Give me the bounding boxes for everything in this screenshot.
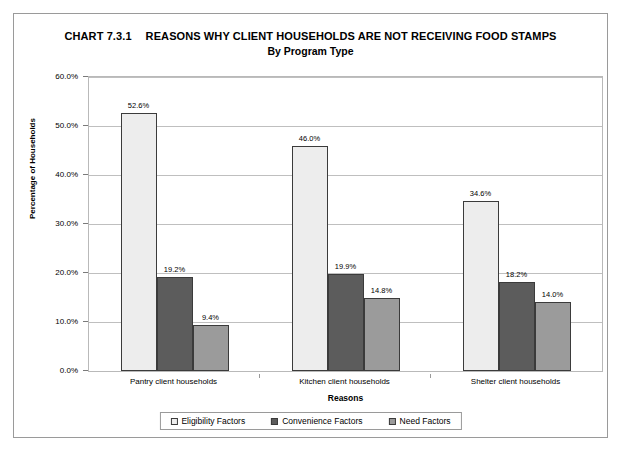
bar[interactable]: 18.2% <box>499 282 535 371</box>
legend-label: Convenience Factors <box>282 416 362 426</box>
bar[interactable]: 52.6% <box>121 113 157 371</box>
bar-group: 46.0%19.9%14.8% <box>260 77 431 371</box>
legend-label: Need Factors <box>400 416 451 426</box>
bar-value-label: 19.2% <box>164 265 185 274</box>
x-category-label: Kitchen client households <box>299 377 390 386</box>
y-tick-label: 60.0% <box>55 72 78 81</box>
bar[interactable]: 9.4% <box>193 325 229 371</box>
bar-value-label: 9.4% <box>202 313 219 322</box>
bar-value-label: 14.0% <box>542 290 563 299</box>
legend-swatch-icon <box>271 418 278 425</box>
bar-value-label: 14.8% <box>371 286 392 295</box>
bar[interactable]: 14.0% <box>535 302 571 371</box>
x-axis-category-labels: Pantry client householdsKitchen client h… <box>88 374 603 390</box>
bar[interactable]: 46.0% <box>292 146 328 371</box>
bar-value-label: 19.9% <box>335 262 356 271</box>
bar-group-bars: 34.6%18.2%14.0% <box>431 77 602 371</box>
bar[interactable]: 34.6% <box>463 201 499 371</box>
y-tick-label: 20.0% <box>55 268 78 277</box>
chart-legend: Eligibility FactorsConvenience FactorsNe… <box>159 412 461 430</box>
y-tick-label: 0.0% <box>60 366 78 375</box>
bar[interactable]: 19.2% <box>157 277 193 371</box>
bar[interactable]: 19.9% <box>328 274 364 372</box>
bar-group: 34.6%18.2%14.0% <box>431 77 602 371</box>
chart-number: CHART 7.3.1 <box>64 30 131 42</box>
bar-value-label: 34.6% <box>470 189 491 198</box>
bar-group-bars: 46.0%19.9%14.8% <box>260 77 431 371</box>
bar[interactable]: 14.8% <box>364 298 400 371</box>
chart-title-line: CHART 7.3.1REASONS WHY CLIENT HOUSEHOLDS… <box>14 30 607 42</box>
chart-title-main: REASONS WHY CLIENT HOUSEHOLDS ARE NOT RE… <box>146 30 557 42</box>
x-tick-mark <box>259 374 260 378</box>
bar-group-bars: 52.6%19.2%9.4% <box>89 77 260 371</box>
x-axis-title: Reasons <box>88 393 603 403</box>
chart-frame: CHART 7.3.1REASONS WHY CLIENT HOUSEHOLDS… <box>13 13 608 438</box>
y-tick-label: 10.0% <box>55 317 78 326</box>
x-category-label: Shelter client households <box>471 377 560 386</box>
legend-item[interactable]: Convenience Factors <box>271 416 362 426</box>
y-axis-ticks: 0.0%10.0%20.0%30.0%40.0%50.0%60.0% <box>14 76 88 372</box>
x-category-label: Pantry client households <box>130 377 217 386</box>
bar-value-label: 46.0% <box>299 134 320 143</box>
chart-subtitle: By Program Type <box>14 45 607 57</box>
legend-label: Eligibility Factors <box>181 416 245 426</box>
legend-item[interactable]: Need Factors <box>389 416 451 426</box>
legend-swatch-icon <box>170 418 177 425</box>
legend-swatch-icon <box>389 418 396 425</box>
y-tick-label: 30.0% <box>55 219 78 228</box>
bar-value-label: 52.6% <box>128 101 149 110</box>
legend-item[interactable]: Eligibility Factors <box>170 416 245 426</box>
y-tick-label: 50.0% <box>55 121 78 130</box>
bar-group: 52.6%19.2%9.4% <box>89 77 260 371</box>
bar-value-label: 18.2% <box>506 270 527 279</box>
plot-area: 52.6%19.2%9.4%46.0%19.9%14.8%34.6%18.2%1… <box>88 76 603 372</box>
x-tick-mark <box>430 374 431 378</box>
chart-title-block: CHART 7.3.1REASONS WHY CLIENT HOUSEHOLDS… <box>14 30 607 57</box>
y-tick-label: 40.0% <box>55 170 78 179</box>
